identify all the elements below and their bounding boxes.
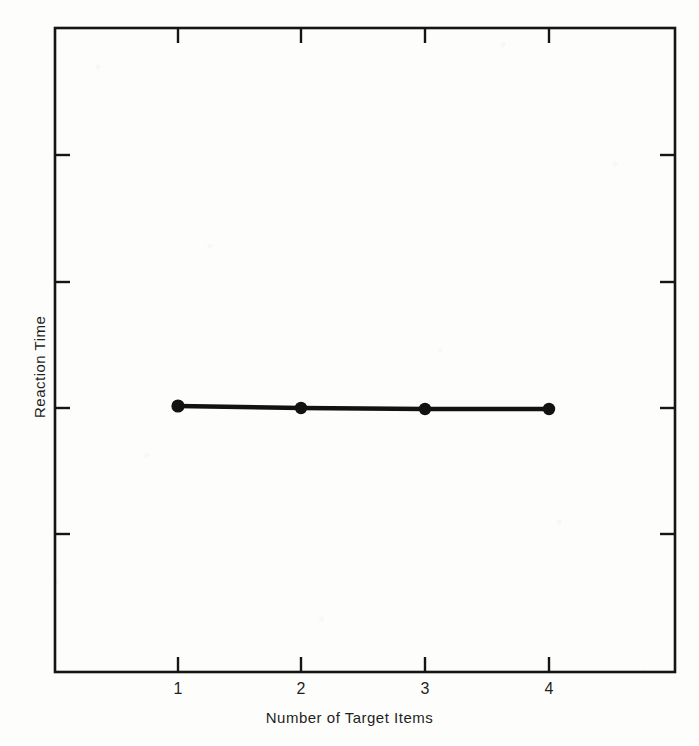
- plot-frame: [55, 28, 675, 672]
- x-axis-title: Number of Target Items: [0, 709, 699, 726]
- y-axis-title: Reaction Time: [31, 316, 48, 418]
- data-line-reaction-time: [178, 406, 549, 409]
- data-point-3: [419, 403, 431, 415]
- x-tick-label-4: 4: [529, 680, 569, 698]
- data-point-2: [295, 402, 307, 414]
- figure-container: 1 2 3 4 Number of Target Items Reaction …: [0, 0, 699, 746]
- data-point-1: [171, 399, 184, 412]
- data-point-4: [543, 403, 555, 415]
- y-axis-ticks-left: [55, 155, 70, 534]
- x-tick-label-3: 3: [405, 680, 445, 698]
- x-tick-label-1: 1: [158, 680, 198, 698]
- x-axis-ticks-bottom: [178, 657, 549, 672]
- x-axis-ticks-top: [178, 28, 549, 43]
- x-tick-label-2: 2: [281, 680, 321, 698]
- y-axis-ticks-right: [660, 155, 675, 534]
- plot-area: [0, 0, 699, 746]
